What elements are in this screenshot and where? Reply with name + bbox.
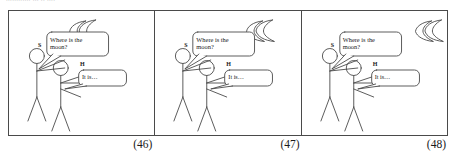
panel-row: S H Where is the moon? It is…	[8, 10, 448, 136]
panel-drawing	[9, 11, 154, 135]
stick-figure-h	[198, 61, 231, 132]
actor-label-h: H	[80, 61, 85, 67]
speech-bubble-question	[332, 32, 402, 69]
panel-caption: (48)	[302, 138, 448, 158]
comic-panel: S H Where is the moon? It is…	[301, 11, 447, 135]
clipped-header-text: ............ ... .. ....	[6, 0, 126, 3]
actor-label-s: S	[184, 42, 187, 48]
panel-drawing	[302, 11, 447, 135]
stick-figure-h	[344, 61, 377, 132]
panel-caption: (47)	[155, 138, 301, 158]
caption-row: (46) (47) (48)	[8, 138, 448, 158]
panel-drawing	[155, 11, 300, 135]
comic-panel: S H Where is the moon? It is…	[9, 11, 154, 135]
speech-bubble-question	[39, 32, 109, 69]
panel-caption: (46)	[8, 138, 155, 158]
comic-figure: S H Where is the moon? It is…	[8, 10, 448, 136]
actor-label-s: S	[331, 42, 334, 48]
speech-bubble-question	[185, 32, 255, 69]
actor-label-h: H	[373, 61, 378, 67]
speech-bubble-answer	[357, 70, 419, 89]
crescent-moon-icon	[415, 20, 443, 42]
comic-panel: S H Where is the moon? It is…	[154, 11, 300, 135]
actor-label-h: H	[226, 61, 231, 67]
speech-bubble-answer	[211, 70, 273, 89]
stick-figure-h	[52, 61, 85, 132]
speech-bubble-answer	[65, 70, 127, 89]
actor-label-s: S	[38, 42, 41, 48]
